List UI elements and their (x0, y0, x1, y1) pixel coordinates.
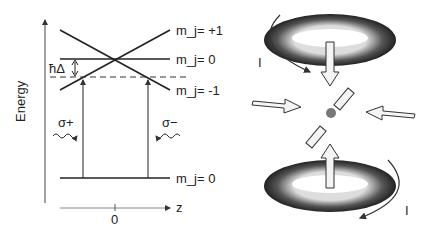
current-label-bottom: I (405, 204, 409, 217)
sigma-minus-label: σ− (162, 116, 178, 129)
sigma-plus-label: σ+ (58, 116, 74, 129)
energy-label: Energy (14, 81, 27, 122)
atom-cloud (326, 108, 336, 118)
level-label-ground: m_j= 0 (176, 172, 215, 185)
z-tick-zero: 0 (111, 213, 118, 226)
current-label-top: I (258, 56, 262, 69)
level-label-zero: m_j= 0 (176, 53, 215, 66)
mot-diagram: Energy m_j= +1 m_j= 0 m_j= -1 m_j= 0 ħΔ … (0, 0, 434, 234)
detuning-label: ħΔ (49, 62, 65, 75)
level-label-plus1: m_j= +1 (176, 24, 223, 37)
z-axis-label: z (176, 201, 183, 214)
level-label-minus1: m_j= -1 (176, 84, 220, 97)
